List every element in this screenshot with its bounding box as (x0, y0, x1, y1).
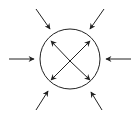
pressure-diagram (0, 0, 136, 116)
internal-up-left-arrow-icon (51, 41, 70, 61)
external-bottom-left-arrow-icon (36, 91, 48, 110)
external-arrows (9, 9, 131, 110)
internal-up-right-arrow-icon (70, 41, 90, 61)
internal-arrows (51, 41, 90, 80)
external-bottom-right-arrow-icon (91, 92, 102, 110)
circle (40, 29, 100, 89)
external-top-left-arrow-icon (36, 9, 50, 29)
internal-down-left-arrow-icon (51, 61, 70, 80)
external-top-right-arrow-icon (90, 9, 104, 29)
internal-down-right-arrow-icon (70, 61, 90, 80)
